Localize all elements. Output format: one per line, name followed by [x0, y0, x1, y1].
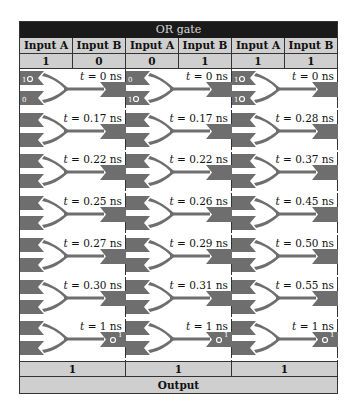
time-label: t = 0.17 ns: [63, 112, 122, 124]
time-label: t = 0.37 ns: [275, 153, 334, 165]
input-values-row: 1 0 0 1 1 1: [20, 53, 337, 68]
time-label: t = 0.31 ns: [169, 279, 228, 291]
time-label: t = 0.55 ns: [275, 279, 334, 291]
time-label: t = 0.30 ns: [63, 279, 122, 291]
gate-step: t = 0.30 ns: [20, 278, 125, 319]
header-input-a-2: Input A: [126, 38, 179, 53]
gate-step: t = 0.17 ns: [20, 111, 125, 152]
panel-case-1: 10t = 0 nst = 0.17 nst = 0.22 nst = 0.25…: [20, 69, 126, 361]
gate-step: 1t = 1 ns: [126, 319, 231, 360]
svg-text:1: 1: [22, 76, 26, 84]
gate-step: t = 0.55 ns: [232, 278, 337, 319]
gate-step: t = 0.45 ns: [232, 194, 337, 235]
header-input-b-3: Input B: [285, 38, 337, 53]
gate-step: t = 0.22 ns: [126, 152, 231, 193]
header-row: Input A Input B Input A Input B Input A …: [20, 38, 337, 53]
value-input-b-1: 0: [73, 53, 126, 68]
gate-step: t = 0.29 ns: [126, 236, 231, 277]
output-values-row: 1 1 1: [20, 361, 337, 376]
gate-step: t = 0.22 ns: [20, 152, 125, 193]
gate-step: t = 0.26 ns: [126, 194, 231, 235]
time-label: t = 0.27 ns: [63, 237, 122, 249]
time-label: t = 0 ns: [186, 70, 228, 82]
value-input-a-2: 0: [126, 53, 179, 68]
time-label: t = 0.17 ns: [169, 112, 228, 124]
svg-text:1: 1: [224, 331, 228, 339]
svg-text:1: 1: [234, 76, 238, 84]
output-value-3: 1: [232, 361, 337, 376]
gate-step: 01t = 0 ns: [126, 69, 231, 110]
svg-text:0: 0: [128, 76, 132, 84]
value-input-b-2: 1: [179, 53, 232, 68]
panel-case-2: 01t = 0 nst = 0.17 nst = 0.22 nst = 0.26…: [126, 69, 232, 361]
time-label: t = 0.26 ns: [169, 195, 228, 207]
gate-step: 1t = 1 ns: [232, 319, 337, 360]
header-input-a-1: Input A: [20, 38, 73, 53]
header-input-b-2: Input B: [179, 38, 232, 53]
gate-step: t = 0.27 ns: [20, 236, 125, 277]
time-label: t = 1 ns: [292, 320, 334, 332]
gate-step: t = 0.31 ns: [126, 278, 231, 319]
time-label: t = 1 ns: [186, 320, 228, 332]
output-label: Output: [20, 376, 337, 393]
time-label: t = 0 ns: [80, 70, 122, 82]
svg-text:1: 1: [128, 96, 132, 104]
time-label: t = 0.29 ns: [169, 237, 228, 249]
time-label: t = 1 ns: [80, 320, 122, 332]
value-input-a-1: 1: [20, 53, 73, 68]
gate-step: 1t = 1 ns: [20, 319, 125, 360]
gate-step: t = 0.50 ns: [232, 236, 337, 277]
time-label: t = 0.22 ns: [169, 153, 228, 165]
simulation-panels: 10t = 0 nst = 0.17 nst = 0.22 nst = 0.25…: [20, 68, 337, 361]
time-label: t = 0 ns: [292, 70, 334, 82]
gate-step: t = 0.37 ns: [232, 152, 337, 193]
time-label: t = 0.28 ns: [275, 112, 334, 124]
gate-step: t = 0.25 ns: [20, 194, 125, 235]
gate-step: 11t = 0 ns: [232, 69, 337, 110]
time-label: t = 0.22 ns: [63, 153, 122, 165]
or-gate-table: OR gate Input A Input B Input A Input B …: [19, 21, 338, 394]
value-input-b-3: 1: [285, 53, 337, 68]
svg-text:1: 1: [234, 96, 238, 104]
svg-text:0: 0: [22, 96, 26, 104]
time-label: t = 0.25 ns: [63, 195, 122, 207]
time-label: t = 0.50 ns: [275, 237, 334, 249]
svg-text:1: 1: [330, 331, 334, 339]
value-input-a-3: 1: [232, 53, 285, 68]
panel-case-3: 11t = 0 nst = 0.28 nst = 0.37 nst = 0.45…: [232, 69, 337, 361]
output-value-2: 1: [126, 361, 232, 376]
gate-step: 10t = 0 ns: [20, 69, 125, 110]
gate-step: t = 0.28 ns: [232, 111, 337, 152]
gate-step: t = 0.17 ns: [126, 111, 231, 152]
table-title: OR gate: [20, 22, 337, 38]
header-input-b-1: Input B: [73, 38, 126, 53]
time-label: t = 0.45 ns: [275, 195, 334, 207]
header-input-a-3: Input A: [232, 38, 285, 53]
output-value-1: 1: [20, 361, 126, 376]
svg-text:1: 1: [118, 331, 122, 339]
